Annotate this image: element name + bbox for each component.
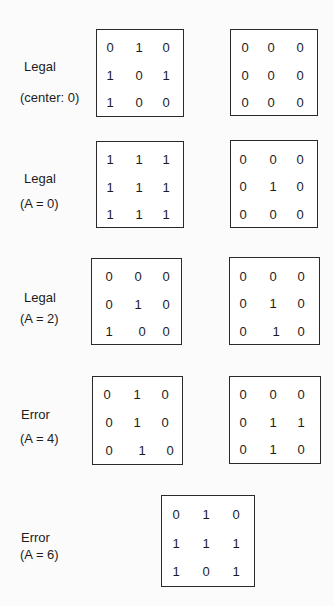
grid-cell: 0 <box>230 507 242 522</box>
grid-cell: 0 <box>200 564 212 579</box>
grid-cell: 0 <box>237 296 249 311</box>
grid-cell: 1 <box>136 443 148 458</box>
row5-status-label: Error <box>21 530 50 545</box>
grid-cell: 1 <box>104 68 116 83</box>
grid-cell: 0 <box>294 152 306 167</box>
grid-cell: 1 <box>267 442 279 457</box>
grid-cell: 0 <box>160 269 172 284</box>
grid-cell: 1 <box>295 415 307 430</box>
grid-cell: 1 <box>104 95 116 110</box>
grid-cell: 0 <box>265 95 277 110</box>
grid-cell: 0 <box>237 324 249 339</box>
row2-grid-left: 1 1 1 1 1 1 1 1 1 <box>96 141 184 228</box>
row3-grid-right: 0 0 0 0 1 0 0 1 0 <box>229 257 320 345</box>
grid-cell: 0 <box>237 207 249 222</box>
grid-cell: 1 <box>170 564 182 579</box>
grid-cell: 1 <box>132 297 144 312</box>
grid-cell: 1 <box>230 536 242 551</box>
grid-cell: 1 <box>103 324 115 339</box>
grid-cell: 1 <box>160 68 172 83</box>
grid-cell: 0 <box>159 415 171 430</box>
grid-cell: 0 <box>237 442 249 457</box>
grid-cell: 0 <box>294 95 306 110</box>
grid-cell: 0 <box>103 297 115 312</box>
row3-status-label: Legal <box>24 290 56 305</box>
grid-cell: 1 <box>200 507 212 522</box>
grid-cell: 1 <box>104 152 116 167</box>
grid-cell: 1 <box>131 387 143 402</box>
grid-cell: 0 <box>295 387 307 402</box>
row5-grid: 0 1 0 1 1 1 1 0 1 <box>161 495 255 587</box>
row2-condition-label: (A = 0) <box>20 196 59 211</box>
grid-cell: 0 <box>103 269 115 284</box>
grid-cell: 1 <box>133 152 145 167</box>
grid-cell: 1 <box>160 152 172 167</box>
row4-status-label: Error <box>21 407 50 422</box>
grid-cell: 1 <box>160 207 172 222</box>
grid-cell: 0 <box>101 387 113 402</box>
grid-cell: 0 <box>132 269 144 284</box>
row5-condition-label: (A = 6) <box>20 547 59 562</box>
row2-status-label: Legal <box>24 171 56 186</box>
row3-condition-label: (A = 2) <box>20 311 59 326</box>
row1-grid-left: 0 1 0 1 0 1 1 0 0 <box>96 29 184 117</box>
grid-cell: 0 <box>237 269 249 284</box>
grid-cell: 0 <box>294 68 306 83</box>
grid-cell: 0 <box>265 40 277 55</box>
grid-cell: 0 <box>239 40 251 55</box>
row4-grid-left: 0 1 0 0 1 0 0 1 0 <box>92 376 183 465</box>
grid-cell: 0 <box>164 443 176 458</box>
row2-grid-right: 0 0 0 0 1 0 0 0 0 <box>230 140 318 228</box>
grid-cell: 0 <box>237 179 249 194</box>
grid-cell: 1 <box>133 40 145 55</box>
grid-cell: 0 <box>295 324 307 339</box>
grid-cell: 1 <box>230 564 242 579</box>
grid-cell: 1 <box>267 415 279 430</box>
grid-cell: 1 <box>133 207 145 222</box>
grid-cell: 0 <box>294 179 306 194</box>
grid-cell: 0 <box>237 387 249 402</box>
grid-cell: 0 <box>267 152 279 167</box>
grid-cell: 1 <box>104 180 116 195</box>
grid-cell: 1 <box>267 179 279 194</box>
grid-cell: 0 <box>295 442 307 457</box>
grid-cell: 0 <box>136 324 148 339</box>
grid-cell: 0 <box>133 68 145 83</box>
grid-cell: 0 <box>267 269 279 284</box>
grid-cell: 0 <box>267 207 279 222</box>
grid-cell: 0 <box>170 507 182 522</box>
grid-cell: 0 <box>104 40 116 55</box>
grid-cell: 0 <box>103 415 115 430</box>
row1-condition-label: (center: 0) <box>20 90 79 105</box>
grid-cell: 1 <box>104 207 116 222</box>
grid-cell: 0 <box>295 296 307 311</box>
grid-cell: 0 <box>133 95 145 110</box>
grid-cell: 0 <box>265 68 277 83</box>
grid-cell: 1 <box>200 536 212 551</box>
grid-cell: 1 <box>267 296 279 311</box>
row4-condition-label: (A = 4) <box>20 431 59 446</box>
grid-cell: 0 <box>160 95 172 110</box>
grid-cell: 1 <box>160 180 172 195</box>
grid-cell: 0 <box>160 297 172 312</box>
grid-cell: 1 <box>131 415 143 430</box>
grid-cell: 0 <box>294 207 306 222</box>
grid-cell: 1 <box>133 180 145 195</box>
grid-cell: 0 <box>160 324 172 339</box>
grid-cell: 0 <box>294 40 306 55</box>
row1-status-label: Legal <box>24 59 56 74</box>
grid-cell: 1 <box>170 536 182 551</box>
grid-cell: 0 <box>103 443 115 458</box>
grid-cell: 0 <box>237 152 249 167</box>
grid-cell: 1 <box>270 324 282 339</box>
grid-cell: 0 <box>159 387 171 402</box>
row3-grid-left: 0 0 0 0 1 0 1 0 0 <box>91 258 182 345</box>
grid-cell: 0 <box>237 415 249 430</box>
grid-cell: 0 <box>239 68 251 83</box>
grid-cell: 0 <box>160 40 172 55</box>
grid-cell: 0 <box>239 95 251 110</box>
grid-cell: 0 <box>267 387 279 402</box>
grid-cell: 0 <box>295 269 307 284</box>
row1-grid-right: 0 0 0 0 0 0 0 0 0 <box>230 29 318 116</box>
row4-grid-right: 0 0 0 0 1 1 0 1 0 <box>229 376 321 464</box>
